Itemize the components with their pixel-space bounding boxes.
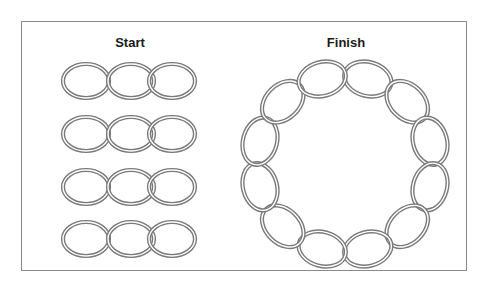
chain-link-row4-1 xyxy=(63,222,109,256)
chain-illustration xyxy=(0,0,494,287)
chain-link-row1-1 xyxy=(63,64,109,98)
finish-chain-ring xyxy=(237,56,452,271)
start-chain-segments xyxy=(63,64,195,256)
ring-link-11 xyxy=(254,73,312,131)
ring-link-8 xyxy=(254,197,312,255)
chain-link-row3-1 xyxy=(63,170,109,204)
chain-link-row2-1 xyxy=(63,117,109,151)
ring-link-5 xyxy=(378,197,436,255)
ring-link-2 xyxy=(378,73,436,131)
